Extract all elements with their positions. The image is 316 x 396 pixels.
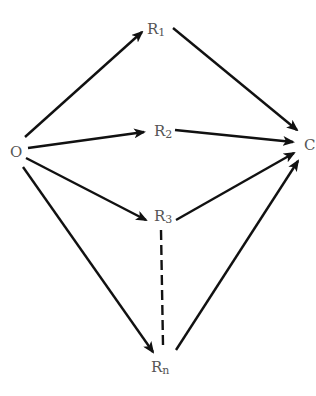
node-c: C (304, 136, 315, 154)
node-rn: Rn (151, 358, 169, 377)
edge-rn-c (176, 161, 298, 350)
node-o: O (10, 143, 22, 161)
edge-r1-c (173, 28, 297, 130)
node-r1: R1 (147, 20, 165, 39)
edge-r3-rn-dashed (161, 230, 163, 345)
edge-r2-c (175, 130, 293, 142)
node-r2: R2 (154, 122, 172, 141)
node-r3: R3 (154, 207, 172, 226)
edge-o-r3 (26, 158, 146, 220)
edge-o-r2 (28, 132, 144, 148)
route-diagram: O R1 R2 R3 Rn C (0, 0, 316, 396)
edge-r3-c (176, 153, 294, 220)
edge-o-r1 (25, 32, 142, 137)
edge-o-rn (23, 167, 153, 352)
